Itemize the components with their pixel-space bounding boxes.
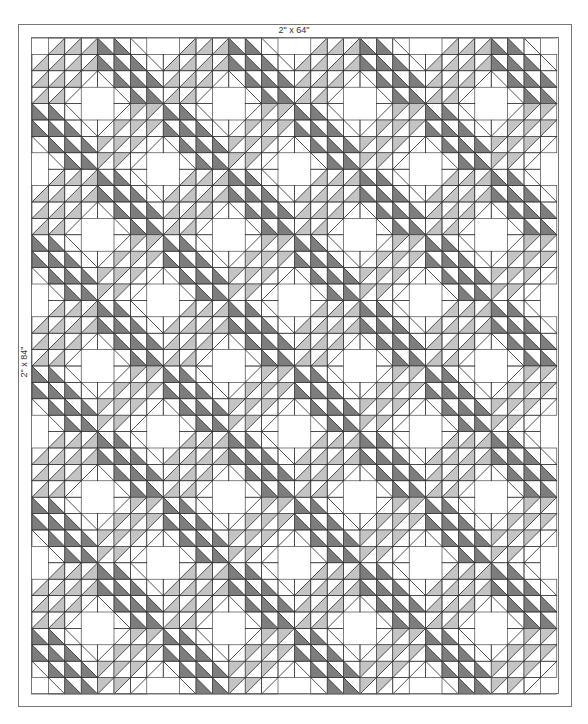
patchwork-grid bbox=[31, 38, 557, 694]
side-border-dimension-label: 2" x 84" bbox=[19, 347, 29, 378]
top-border-dimension-label: 2" x 64" bbox=[0, 25, 588, 35]
quilt-diagram bbox=[0, 0, 588, 724]
